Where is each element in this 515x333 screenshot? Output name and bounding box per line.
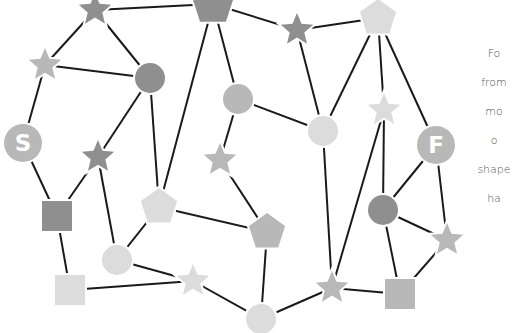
pentagon-node[interactable] bbox=[141, 188, 177, 222]
pentagon-icon bbox=[141, 188, 177, 222]
pentagon-icon bbox=[249, 213, 285, 247]
star-icon bbox=[177, 264, 209, 295]
edge-layer bbox=[23, 4, 447, 319]
circle-node[interactable] bbox=[102, 245, 132, 275]
star-node[interactable] bbox=[177, 264, 209, 295]
instructions-line: Fo bbox=[434, 47, 515, 62]
circle-node[interactable] bbox=[308, 116, 338, 146]
star-node[interactable] bbox=[316, 271, 348, 302]
circle-icon bbox=[246, 304, 276, 333]
circle-node[interactable] bbox=[223, 84, 253, 114]
edge-n8-n20 bbox=[323, 131, 332, 288]
instructions-line: shape bbox=[434, 163, 515, 178]
instructions-line: mo bbox=[434, 105, 515, 120]
circle-icon bbox=[368, 195, 398, 225]
square-icon bbox=[42, 201, 72, 231]
square-node[interactable] bbox=[55, 275, 85, 305]
instructions-line: o bbox=[434, 134, 515, 149]
star-icon bbox=[82, 140, 114, 171]
circle-icon bbox=[135, 63, 165, 93]
star-node[interactable] bbox=[281, 13, 313, 44]
circle-node[interactable] bbox=[246, 304, 276, 333]
edge-n2-n12 bbox=[159, 4, 213, 207]
square-icon bbox=[385, 279, 415, 309]
instructions-line: from bbox=[434, 76, 515, 91]
star-node[interactable] bbox=[431, 223, 463, 254]
square-node[interactable] bbox=[42, 201, 72, 231]
circle-node[interactable] bbox=[368, 195, 398, 225]
star-node[interactable] bbox=[82, 140, 114, 171]
circle-icon bbox=[223, 84, 253, 114]
star-icon bbox=[368, 93, 400, 124]
instructions-line: ha bbox=[434, 192, 515, 207]
square-icon bbox=[55, 275, 85, 305]
edge-n19-n18 bbox=[70, 281, 193, 290]
star-node[interactable] bbox=[79, 0, 111, 24]
circle-icon bbox=[102, 245, 132, 275]
star-node[interactable] bbox=[204, 143, 236, 174]
star-node[interactable] bbox=[368, 93, 400, 124]
node-layer: SF bbox=[4, 0, 463, 333]
pentagon-icon bbox=[360, 0, 396, 33]
pentagon-node[interactable] bbox=[192, 0, 234, 22]
start-node[interactable]: S bbox=[4, 124, 42, 162]
node-label: S bbox=[15, 130, 32, 156]
pentagon-node[interactable] bbox=[360, 0, 396, 33]
square-node[interactable] bbox=[385, 279, 415, 309]
circle-node[interactable] bbox=[135, 63, 165, 93]
circle-icon bbox=[308, 116, 338, 146]
pentagon-icon bbox=[192, 0, 234, 22]
star-icon bbox=[316, 271, 348, 302]
instructions-text: Fo from mo o shape ha bbox=[434, 32, 515, 221]
star-icon bbox=[281, 13, 313, 44]
star-icon bbox=[79, 0, 111, 24]
pentagon-node[interactable] bbox=[249, 213, 285, 247]
star-icon bbox=[431, 223, 463, 254]
star-icon bbox=[204, 143, 236, 174]
